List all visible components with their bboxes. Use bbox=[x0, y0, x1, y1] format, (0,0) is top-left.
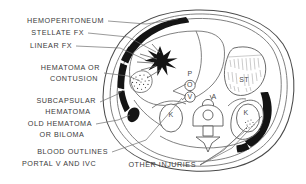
label-blood-outlines: BLOOD OUTLINES bbox=[37, 147, 108, 156]
ivc-label: O bbox=[187, 81, 193, 88]
label-or-biloma: OR BILOMA bbox=[40, 130, 85, 139]
stomach-label: ST bbox=[239, 76, 249, 83]
stellate-fracture bbox=[144, 46, 177, 76]
vertebra bbox=[193, 105, 223, 152]
portal-vein-ivc-group: P O V bbox=[173, 70, 195, 102]
label-portal-v-and-ivc: PORTAL V AND IVC bbox=[22, 159, 96, 168]
label-hemoperitoneum: HEMOPERITONEUM bbox=[27, 16, 104, 25]
portal-vein-label: P bbox=[187, 70, 192, 77]
kidney-left-label: K bbox=[168, 111, 173, 118]
label-stellate-fx: STELLATE FX bbox=[31, 28, 84, 37]
label-subcapsular: SUBCAPSULAR bbox=[36, 96, 96, 105]
kidney-right: K bbox=[237, 104, 260, 132]
liver bbox=[130, 31, 225, 105]
hematoma-contusion-lesion bbox=[130, 71, 152, 93]
vena-cava-label: V bbox=[187, 93, 192, 100]
medical-illustration: ST P O V A K K bbox=[0, 0, 306, 184]
callout-labels: HEMOPERITONEUM STELLATE FX LINEAR FX HEM… bbox=[22, 16, 196, 169]
label-linear-fx: LINEAR FX bbox=[30, 41, 72, 50]
label-contusion: CONTUSION bbox=[50, 74, 98, 83]
stomach: ST bbox=[224, 47, 265, 96]
body-wall bbox=[103, 10, 294, 171]
label-hematoma-or: HEMATOMA OR bbox=[41, 63, 100, 72]
cross-section-svg: ST P O V A K K bbox=[0, 0, 306, 184]
aorta-label: A bbox=[211, 93, 216, 100]
kidney-right-label: K bbox=[243, 109, 248, 116]
label-hematoma: HEMATOMA bbox=[45, 107, 90, 116]
label-other-injuries: OTHER INJURIES bbox=[128, 160, 196, 169]
label-old-hematoma: OLD HEMATOMA bbox=[28, 119, 92, 128]
kidney-left: K bbox=[160, 104, 183, 132]
